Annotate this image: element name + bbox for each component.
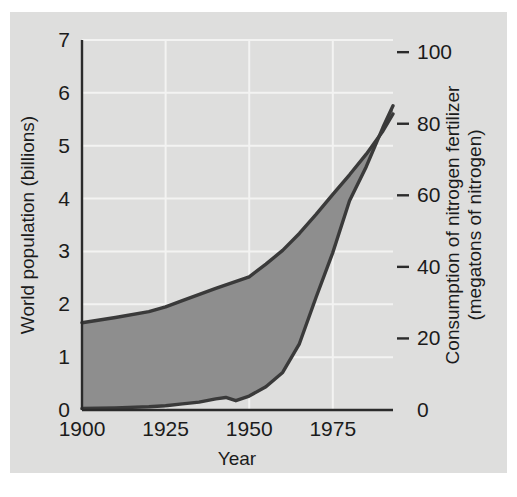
x-axis-title: Year xyxy=(218,448,257,469)
y2-tick-label: 0 xyxy=(417,398,429,421)
y2-tick-label: 20 xyxy=(417,326,440,349)
chart-canvas: 01234567 020406080100 1900192519501975 Y… xyxy=(0,0,517,497)
y2-axis-title-line2: (megatons of nitrogen) xyxy=(464,129,485,320)
x-tick-label: 1900 xyxy=(59,417,106,440)
x-tick-label: 1925 xyxy=(142,417,189,440)
y2-tick-label: 40 xyxy=(417,255,440,278)
y-tick-label: 6 xyxy=(58,81,70,104)
left-axis-ticks: 01234567 xyxy=(58,28,70,421)
x-axis-ticks: 1900192519501975 xyxy=(59,417,357,440)
x-tick-label: 1975 xyxy=(309,417,356,440)
y-tick-label: 1 xyxy=(58,345,70,368)
y-tick-label: 4 xyxy=(58,187,70,210)
y-axis-title-left: World population (billions) xyxy=(17,116,38,334)
y-tick-label: 5 xyxy=(58,134,70,157)
y2-tick-label: 80 xyxy=(417,112,440,135)
y-tick-label: 2 xyxy=(58,292,70,315)
y-tick-label: 3 xyxy=(58,239,70,262)
y2-axis-title-line1: Consumption of nitrogen fertilizer xyxy=(442,85,463,364)
y2-tick-label: 100 xyxy=(417,40,452,63)
y-tick-label: 7 xyxy=(58,28,70,51)
y2-tick-label: 60 xyxy=(417,183,440,206)
x-tick-label: 1950 xyxy=(226,417,273,440)
